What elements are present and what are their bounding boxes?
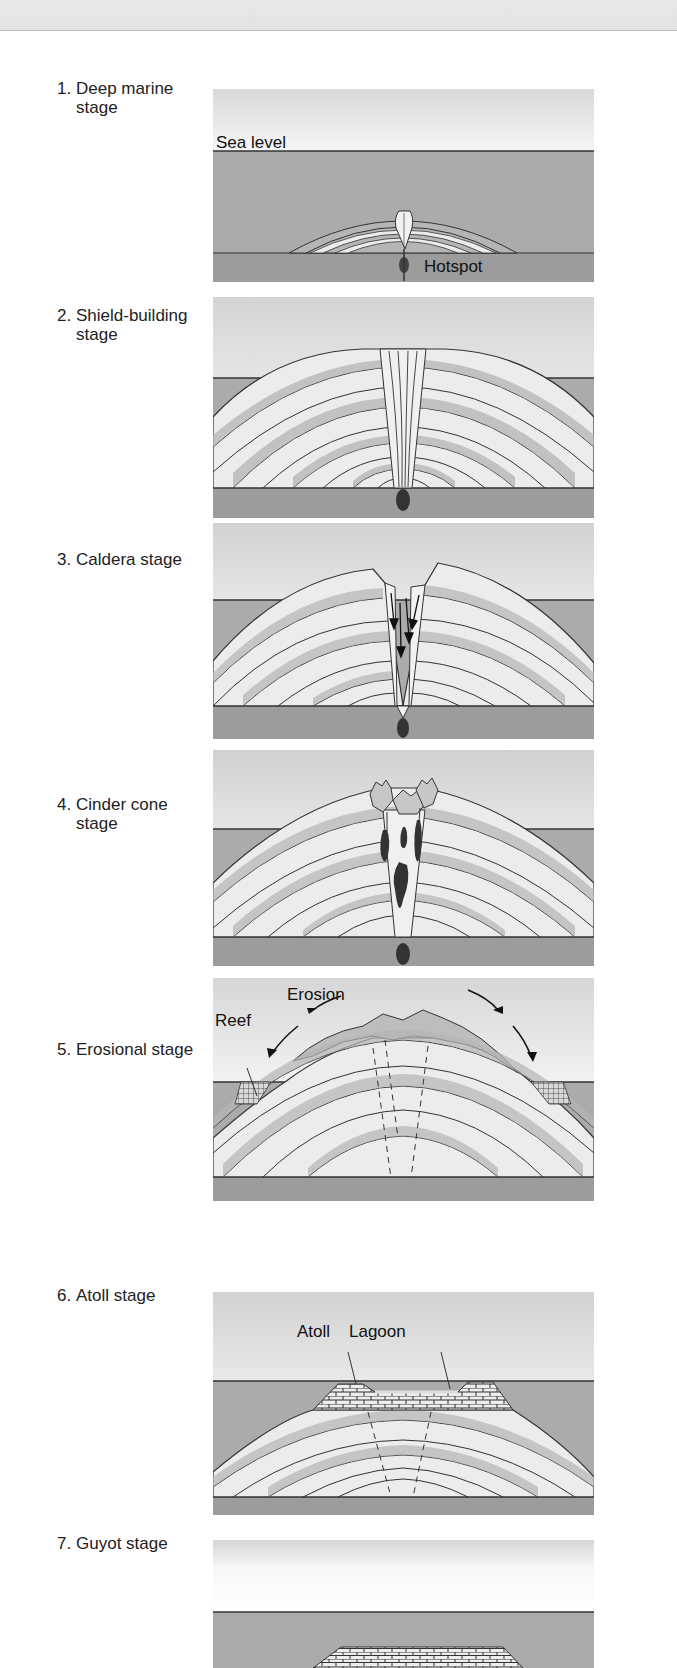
hotspot-callout: Hotspot bbox=[424, 257, 483, 277]
stage-6-label: 6.Atoll stage bbox=[57, 1286, 155, 1305]
stage-7-label: 7.Guyot stage bbox=[57, 1534, 168, 1553]
stage-4-diagram bbox=[213, 750, 594, 966]
stage-1-diagram bbox=[213, 89, 594, 282]
stage-7-diagram bbox=[213, 1540, 594, 1668]
stage-5-diagram bbox=[213, 978, 594, 1201]
sea-level-callout: Sea level bbox=[216, 133, 286, 153]
stage-2-diagram bbox=[213, 297, 594, 518]
stage-3-diagram bbox=[213, 523, 594, 739]
reef-callout: Reef bbox=[215, 1011, 251, 1031]
stage-3-label: 3.Caldera stage bbox=[57, 550, 182, 569]
top-header-band bbox=[0, 0, 677, 31]
erosion-callout: Erosion bbox=[287, 985, 345, 1005]
stage-4-label: 4.Cinder cone stage bbox=[57, 795, 168, 833]
atoll-callout: Atoll bbox=[297, 1322, 330, 1342]
stage-1-label: 1.Deep marine stage bbox=[57, 79, 173, 117]
stage-2-label: 2.Shield-building stage bbox=[57, 306, 188, 344]
stage-5-label: 5.Erosional stage bbox=[57, 1040, 193, 1059]
lagoon-callout: Lagoon bbox=[349, 1322, 406, 1342]
